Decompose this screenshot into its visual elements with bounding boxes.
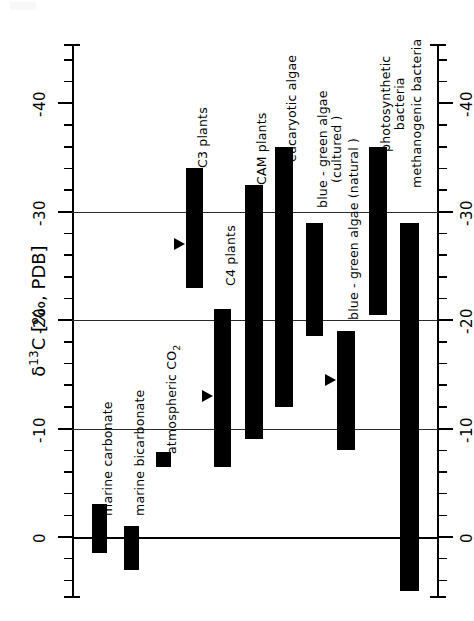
ytick-label-right-m10: -10: [458, 410, 474, 450]
minor-tick-r--28: [439, 233, 447, 235]
ytick-label-right-m30: -30: [458, 193, 474, 233]
minor-tick-l--2: [64, 515, 72, 517]
y-axis-title-delta: δ: [28, 366, 49, 377]
range-bar: [124, 526, 139, 569]
range-bar: [214, 309, 231, 466]
minor-tick-r--44: [439, 59, 447, 61]
minor-tick-r--8: [439, 450, 447, 452]
minor-tick-l--22: [64, 298, 72, 300]
axis-left-top-cap: [64, 44, 80, 46]
range-bar: [337, 331, 355, 450]
minor-tick-r--38: [439, 124, 447, 126]
y-axis-title-rest: C [‰, PDB]: [28, 245, 49, 350]
bar-label: CAM plants: [255, 113, 269, 185]
minor-tick-r--2: [439, 515, 447, 517]
major-tick-r--20: [439, 319, 453, 321]
figure-root: 0 -10 -20 -30 -40 0 -10 -20 -30 -40 δ13C…: [0, 0, 474, 621]
mean-value-marker: [174, 238, 185, 250]
ytick-label-right-0: 0: [458, 518, 474, 558]
minor-tick-r--26: [439, 254, 447, 256]
bar-label: marine bicarbonate: [133, 390, 147, 516]
major-tick-l--10: [58, 428, 72, 430]
bar-label: methanogenic bacteria: [410, 39, 424, 188]
minor-tick-l--34: [64, 168, 72, 170]
minor-tick-l--36: [64, 146, 72, 148]
minor-tick-r--32: [439, 189, 447, 191]
minor-tick-l--12: [64, 406, 72, 408]
minor-tick-l--44: [64, 59, 72, 61]
minor-tick-r--18: [439, 341, 447, 343]
minor-tick-l--42: [64, 81, 72, 83]
bar-label: eucaryotic algae: [285, 55, 299, 162]
minor-tick-r--22: [439, 298, 447, 300]
range-bar: [245, 185, 263, 440]
major-tick-r-0: [439, 536, 453, 538]
minor-tick-l--6: [64, 471, 72, 473]
y-axis-title-superscript: 13: [27, 350, 41, 365]
range-bar: [156, 452, 171, 466]
minor-tick-l--38: [64, 124, 72, 126]
bar-label: C3 plants: [196, 107, 210, 168]
major-tick-l--30: [58, 211, 72, 213]
y-axis-title: δ13C [‰, PDB]: [27, 226, 49, 396]
minor-tick-l--26: [64, 254, 72, 256]
ytick-label-left-0: 0: [31, 518, 49, 558]
minor-tick-l--16: [64, 363, 72, 365]
minor-tick-l--14: [64, 384, 72, 386]
ytick-label-right-m40: -40: [458, 84, 474, 124]
major-tick-r--30: [439, 211, 453, 213]
range-bar: [369, 147, 387, 315]
bar-label: blue - green algae (cultured ): [316, 90, 345, 208]
ytick-label-right-m20: -20: [458, 301, 474, 341]
minor-tick-r-2: [439, 558, 447, 560]
minor-tick-l--32: [64, 189, 72, 191]
minor-tick-r--6: [439, 471, 447, 473]
minor-tick-l--4: [64, 493, 72, 495]
major-tick-r--10: [439, 428, 453, 430]
ytick-label-left-m10: -10: [31, 410, 49, 450]
ytick-label-left-m40: -40: [31, 84, 49, 124]
axis-right-bottom-cap: [430, 596, 446, 598]
minor-tick-r--14: [439, 384, 447, 386]
bar-label: C4 plants: [224, 225, 238, 286]
minor-tick-l-4: [64, 580, 72, 582]
bar-label: atmospheric CO2: [165, 344, 182, 454]
major-tick-l--20: [58, 319, 72, 321]
minor-tick-r-4: [439, 580, 447, 582]
major-tick-l--40: [58, 102, 72, 104]
range-bar: [186, 168, 203, 287]
bar-label: marine carbonate: [101, 401, 115, 516]
minor-tick-r--16: [439, 363, 447, 365]
minor-tick-l--8: [64, 450, 72, 452]
minor-tick-r--36: [439, 146, 447, 148]
minor-tick-r--34: [439, 168, 447, 170]
minor-tick-r--12: [439, 406, 447, 408]
bar-label: blue - green algae (natural ): [347, 138, 361, 320]
minor-tick-l--24: [64, 276, 72, 278]
range-bar: [306, 223, 323, 337]
minor-tick-l--28: [64, 233, 72, 235]
range-bar: [275, 147, 293, 407]
minor-tick-r--42: [439, 81, 447, 83]
axis-left-bottom-cap: [64, 596, 80, 598]
mean-value-marker: [325, 374, 336, 386]
minor-tick-r--4: [439, 493, 447, 495]
axis-right-top-cap: [430, 44, 446, 46]
major-tick-r--40: [439, 102, 453, 104]
major-tick-l-0: [58, 536, 72, 538]
mean-value-marker: [202, 390, 213, 402]
range-bar: [400, 223, 419, 592]
bar-label: photosynthetic bacteria: [379, 56, 408, 152]
minor-tick-l-2: [64, 558, 72, 560]
minor-tick-r--24: [439, 276, 447, 278]
plot-area: 0 -10 -20 -30 -40 0 -10 -20 -30 -40 δ13C…: [0, 0, 474, 621]
minor-tick-l--18: [64, 341, 72, 343]
